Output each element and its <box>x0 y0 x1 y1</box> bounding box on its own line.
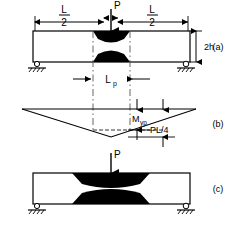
load-label-c: P <box>114 149 121 160</box>
roller-support-a-right <box>177 61 195 72</box>
hatching-c-left <box>29 210 44 214</box>
half-span-left-numerator: L <box>61 4 67 15</box>
panel-label-c: (c) <box>213 184 224 194</box>
label-half-span-left: L 2 <box>59 4 70 28</box>
load-label-a: P <box>114 0 121 11</box>
yield-moment-label: M <box>132 114 140 124</box>
dimension-plastic-length: L p <box>73 74 150 88</box>
pin-circle-c <box>34 203 39 208</box>
figure-canvas: L 2 L 2 P 2h <box>0 0 241 226</box>
plastic-zone-top-a <box>93 31 130 43</box>
plastic-length-label: L <box>105 74 111 85</box>
plastic-zone-top-c <box>72 173 150 188</box>
peak-moment-label: PL/4 <box>150 125 169 135</box>
yield-moment-subscript: yp <box>140 119 147 127</box>
panel-label-b: (b) <box>213 119 224 129</box>
panel-label-a: (a) <box>213 42 224 52</box>
roller-circle-c <box>183 203 189 209</box>
beam-plasticity-figure: L 2 L 2 P 2h <box>0 0 241 226</box>
dimension-half-span-left <box>35 16 104 31</box>
hatching-c-right <box>178 210 193 214</box>
dimension-depth-2h: 2h <box>190 31 214 62</box>
point-load-c: P <box>111 149 121 173</box>
roller-support-c-right <box>177 203 195 214</box>
roller-circle-a <box>183 61 189 67</box>
half-span-right-numerator: L <box>149 4 155 15</box>
pin-support-c-left <box>28 203 46 214</box>
plastic-zone-bottom-c <box>72 189 150 204</box>
half-span-right-denominator: 2 <box>149 17 155 28</box>
half-span-left-denominator: 2 <box>61 17 67 28</box>
dimension-yield-moment: M yp <box>128 99 150 140</box>
pin-circle-a <box>34 61 39 66</box>
pin-support-a-left <box>28 61 46 72</box>
moment-triangle <box>22 109 196 137</box>
plastic-length-subscript: p <box>113 80 117 88</box>
point-load-a: P <box>104 0 121 31</box>
plastic-zone-bottom-a <box>93 51 130 63</box>
label-half-span-right: L 2 <box>147 4 158 28</box>
